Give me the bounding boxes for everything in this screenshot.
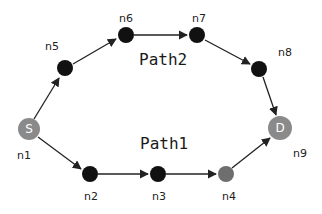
node-n1: S n1 (17, 118, 40, 162)
node-n8: n8 (251, 46, 292, 77)
node-circle (82, 166, 98, 182)
node-label-n2: n2 (84, 190, 98, 203)
edge-n5-n6 (73, 39, 116, 64)
node-n7: n7 (189, 12, 206, 43)
node-circle (150, 166, 166, 182)
node-circle (251, 61, 267, 77)
destination-node-inner-label: D (275, 121, 284, 135)
source-node-inner-label: S (25, 122, 33, 136)
node-label-n5: n5 (45, 40, 59, 53)
edge-n1-n2 (38, 137, 81, 169)
node-n6: n6 (118, 12, 134, 43)
path2-edges (34, 35, 276, 119)
node-label-n3: n3 (152, 190, 166, 203)
node-label-n1: n1 (17, 149, 31, 162)
path2-label: Path2 (139, 50, 187, 69)
node-circle (118, 27, 134, 43)
node-n3: n3 (150, 166, 166, 203)
node-label-n9: n9 (293, 147, 307, 160)
node-n2: n2 (82, 166, 98, 203)
path1-label: Path1 (140, 134, 188, 153)
edge-n4-n9 (232, 138, 270, 168)
node-label-n4: n4 (222, 190, 236, 203)
node-circle (218, 166, 234, 182)
edge-n7-n8 (205, 40, 250, 64)
edge-n8-n9 (263, 77, 276, 115)
node-label-n8: n8 (278, 46, 292, 59)
network-diagram: S n1 n5 n6 n7 n8 D n9 n2 n3 n4 Path2 Pat… (0, 0, 322, 214)
node-n5: n5 (45, 40, 73, 76)
node-circle (189, 27, 205, 43)
edge-n1-n5 (34, 78, 59, 119)
node-circle (57, 60, 73, 76)
node-label-n6: n6 (119, 12, 133, 25)
node-n4: n4 (218, 166, 236, 203)
node-n9: D n9 (268, 116, 307, 160)
node-label-n7: n7 (192, 12, 206, 25)
